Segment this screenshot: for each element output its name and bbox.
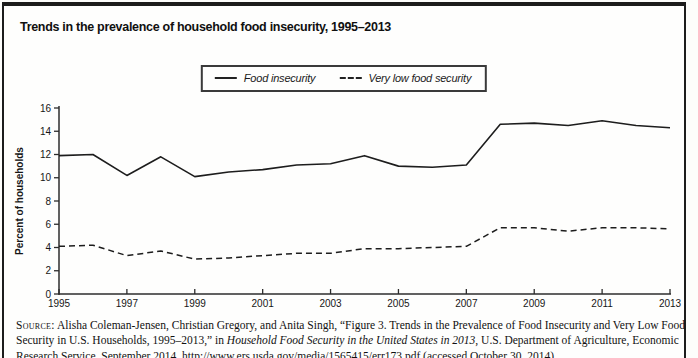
solid-line-swatch-icon	[215, 77, 237, 79]
chart-legend: Food insecurity Very low food security	[201, 65, 487, 92]
x-axis-tick-label: 2009	[523, 298, 546, 309]
y-axis-tick-label: 10	[40, 172, 52, 183]
x-axis-tick-label: 2013	[659, 298, 682, 309]
legend-item-very-low-food-security: Very low food security	[339, 72, 471, 84]
x-axis-tick-label: 1995	[48, 298, 71, 309]
y-axis-tick-label: 6	[45, 219, 51, 230]
legend-label-very-low-food-security: Very low food security	[368, 72, 471, 84]
series-line-dashed	[59, 228, 670, 259]
series-line-solid	[59, 121, 670, 177]
x-axis-tick-label: 2001	[252, 298, 275, 309]
x-axis-tick-label: 2005	[387, 298, 410, 309]
x-axis-tick-label: 2007	[455, 298, 478, 309]
x-axis-tick-label: 1999	[184, 298, 207, 309]
x-axis-tick-label: 1997	[116, 298, 139, 309]
y-axis-tick-label: 12	[40, 149, 52, 160]
y-axis-tick-label: 2	[45, 265, 51, 276]
y-axis-title: Percent of households	[14, 147, 25, 255]
scanned-figure-page: Trends in the prevalence of household fo…	[0, 0, 698, 358]
dashed-line-swatch-icon	[339, 77, 361, 79]
source-publication-title: Household Food Security in the United St…	[227, 334, 476, 346]
x-axis-tick-label: 2003	[319, 298, 342, 309]
x-axis-tick-label: 2011	[591, 298, 613, 309]
legend-label-food-insecurity: Food insecurity	[244, 72, 316, 84]
y-axis-tick-label: 16	[40, 103, 52, 114]
y-axis-tick-label: 4	[45, 242, 51, 253]
y-axis-tick-label: 8	[45, 196, 51, 207]
source-note: Source: Alisha Coleman-Jensen, Christian…	[16, 318, 690, 358]
legend-item-food-insecurity: Food insecurity	[215, 72, 316, 84]
y-axis-tick-label: 14	[40, 126, 52, 137]
figure-box: Trends in the prevalence of household fo…	[2, 2, 686, 358]
line-chart: 0246810121416199519971999200120032005200…	[10, 98, 690, 312]
figure-title: Trends in the prevalence of household fo…	[20, 20, 391, 34]
source-label: Source:	[16, 319, 55, 331]
